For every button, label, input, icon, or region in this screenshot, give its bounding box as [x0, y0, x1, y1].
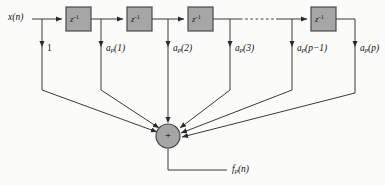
- delay-block-3-label: z-1: [192, 14, 201, 24]
- figure-canvas: z-1 z-1 z-1 z-1 x(n) 1 ap(1) ap(2) ap(3)…: [0, 0, 385, 185]
- tap-label-1: ap(1): [106, 44, 125, 54]
- tap-label-3: ap(3): [235, 44, 254, 54]
- tap-label-pm1: ap(p−1): [297, 44, 327, 54]
- wire-summer-output: [168, 148, 227, 170]
- tap-label-p: ap(p): [360, 44, 379, 54]
- signal-flow-diagram: [0, 0, 385, 185]
- tap-line-pm1-diagonal: [181, 90, 292, 133]
- tap-label-2: ap(2): [173, 44, 192, 54]
- tap-label-0: 1: [47, 44, 52, 54]
- delay-block-1-label: z-1: [70, 14, 79, 24]
- output-signal-label: fp(n): [232, 165, 249, 175]
- tap-line-0-diagonal: [42, 90, 157, 132]
- delay-block-p-label: z-1: [315, 14, 324, 24]
- delay-block-2-label: z-1: [131, 14, 140, 24]
- tap-line-3-diagonal: [180, 90, 230, 128]
- summer-plus-symbol: +: [165, 130, 171, 141]
- input-signal-label: x(n): [8, 13, 23, 23]
